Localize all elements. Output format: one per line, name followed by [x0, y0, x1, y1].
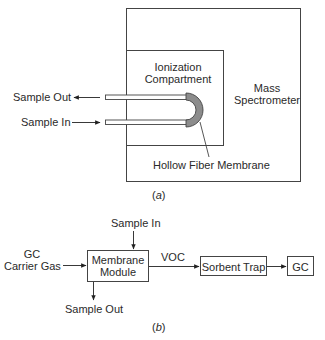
mass-spectrometer-label-line-1: Mass: [232, 82, 302, 94]
carrier-gas-label: GC Carrier Gas: [4, 248, 60, 272]
hollow-fiber-membrane: [186, 93, 203, 127]
caption-b: (b): [152, 321, 165, 333]
caption-a: (a): [152, 189, 165, 201]
ionization-label-line-2: Compartment: [140, 73, 216, 85]
membrane-module-label-line-2: Module: [88, 266, 148, 278]
gc-label: GC: [288, 261, 313, 273]
membrane-module-label: Membrane Module: [88, 254, 148, 278]
sample-out-label-a: Sample Out: [13, 91, 71, 103]
sample-out-label-b: Sample Out: [65, 303, 123, 315]
membrane-pointer-line: [200, 122, 209, 157]
hollow-fiber-membrane-label: Hollow Fiber Membrane: [153, 159, 270, 171]
ionization-label-line-1: Ionization: [140, 61, 216, 73]
voc-label: VOC: [161, 251, 185, 263]
carrier-gas-label-line-1: GC: [4, 248, 60, 260]
carrier-gas-label-line-2: Carrier Gas: [4, 260, 60, 272]
sample-in-label-b: Sample In: [111, 217, 161, 229]
sorbent-trap-label: Sorbent Trap: [201, 261, 266, 273]
mass-spectrometer-label: Mass Spectrometer: [232, 82, 302, 106]
mass-spectrometer-label-line-2: Spectrometer: [232, 94, 302, 106]
sample-in-label-a: Sample In: [21, 116, 71, 128]
hollow-fiber-tubes: [106, 95, 188, 125]
ionization-compartment-label: Ionization Compartment: [140, 61, 216, 85]
membrane-module-label-line-1: Membrane: [88, 254, 148, 266]
